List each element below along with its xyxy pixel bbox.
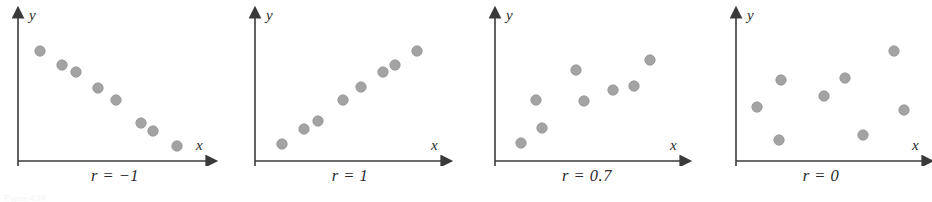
- y-axis-label: y: [504, 7, 513, 23]
- data-point: [840, 73, 850, 83]
- scatter-plot-r-minus-1: x y: [0, 0, 232, 166]
- data-point: [338, 95, 348, 105]
- correlation-scatterplot-figure: x y r = −1: [0, 0, 932, 202]
- caption-r-0-7: r = 0.7: [472, 166, 702, 186]
- data-point: [537, 123, 547, 133]
- data-point: [71, 67, 81, 77]
- data-point: [645, 55, 655, 65]
- data-point: [858, 130, 868, 140]
- scatter-plot-r-1: x y: [237, 0, 469, 166]
- data-points-group: [516, 55, 655, 148]
- x-axis-label: x: [430, 137, 438, 153]
- data-point: [579, 96, 589, 106]
- data-points-group: [752, 46, 909, 145]
- data-point: [356, 82, 366, 92]
- y-axis-label: y: [27, 7, 36, 23]
- data-point: [819, 91, 829, 101]
- x-axis-label: x: [669, 137, 677, 153]
- data-points-group: [35, 46, 182, 151]
- caption-r-1: r = 1: [235, 166, 465, 186]
- x-axis-label: x: [195, 137, 203, 153]
- data-point: [378, 67, 388, 77]
- data-point: [571, 65, 581, 75]
- data-point: [608, 85, 618, 95]
- caption-r-0: r = 0: [710, 166, 932, 186]
- data-point: [629, 81, 639, 91]
- data-point: [35, 46, 45, 56]
- data-point: [412, 46, 422, 56]
- data-point: [390, 60, 400, 70]
- data-point: [752, 102, 762, 112]
- data-point: [148, 126, 158, 136]
- data-point: [531, 95, 541, 105]
- data-point: [172, 141, 182, 151]
- data-point: [774, 135, 784, 145]
- data-point: [776, 75, 786, 85]
- data-point: [313, 116, 323, 126]
- scatter-plot-r-0-7: x y: [474, 0, 706, 166]
- y-axis-label: y: [745, 7, 754, 23]
- data-point: [889, 46, 899, 56]
- data-points-group: [277, 46, 422, 149]
- data-point: [516, 138, 526, 148]
- y-axis-label: y: [264, 7, 273, 23]
- caption-r-minus-1: r = −1: [0, 166, 230, 186]
- figure-footnote: Figure 4.10: [4, 194, 46, 202]
- data-point: [299, 124, 309, 134]
- data-point: [899, 105, 909, 115]
- data-point: [57, 60, 67, 70]
- data-point: [111, 95, 121, 105]
- scatter-plot-r-0: x y: [712, 0, 932, 166]
- data-point: [277, 139, 287, 149]
- data-point: [93, 83, 103, 93]
- x-axis-label: x: [911, 137, 919, 153]
- data-point: [136, 118, 146, 128]
